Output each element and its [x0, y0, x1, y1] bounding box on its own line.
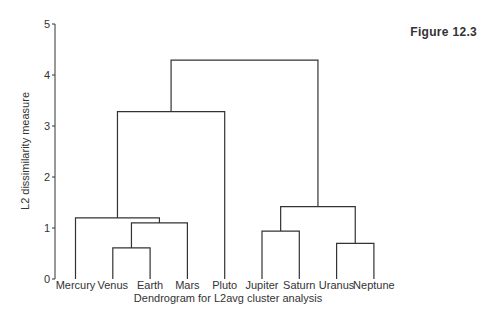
- x-axis-label: Dendrogram for L2avg cluster analysis: [134, 292, 323, 304]
- leaf-label: Jupiter: [245, 279, 278, 291]
- dendrogram-link: [171, 60, 318, 206]
- dendrogram-links: [76, 60, 374, 279]
- dendrogram-link: [117, 112, 224, 279]
- y-axis: 012345: [44, 18, 55, 285]
- leaf-label: Neptune: [353, 279, 395, 291]
- dendrogram-link: [131, 223, 187, 279]
- dendrogram-link: [337, 243, 374, 279]
- y-tick-label: 5: [44, 18, 50, 30]
- dendrogram-link: [281, 207, 356, 244]
- y-tick-label: 3: [44, 120, 50, 132]
- leaf-label: Mercury: [56, 279, 96, 291]
- dendrogram-chart: 012345 MercuryVenusEarthMarsPlutoJupiter…: [0, 0, 489, 319]
- y-tick-label: 0: [44, 273, 50, 285]
- y-tick-label: 1: [44, 222, 50, 234]
- y-axis-label: L2 dissimilarity measure: [19, 92, 31, 210]
- leaf-label: Mars: [175, 279, 200, 291]
- leaf-label: Uranus: [319, 279, 355, 291]
- leaf-labels: MercuryVenusEarthMarsPlutoJupiterSaturnU…: [56, 279, 395, 291]
- y-tick-label: 4: [44, 69, 50, 81]
- leaf-label: Pluto: [212, 279, 237, 291]
- leaf-label: Venus: [98, 279, 129, 291]
- leaf-label: Earth: [137, 279, 163, 291]
- dendrogram-link: [262, 231, 299, 279]
- y-tick-label: 2: [44, 171, 50, 183]
- leaf-label: Saturn: [283, 279, 315, 291]
- dendrogram-link: [113, 248, 150, 279]
